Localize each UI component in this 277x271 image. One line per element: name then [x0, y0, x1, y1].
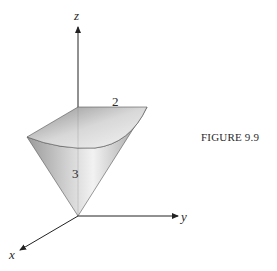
- figure-diagram: z y x 2 3 FIGURE 9.9: [0, 0, 277, 271]
- x-axis: [20, 216, 78, 250]
- height-label: 3: [72, 166, 79, 181]
- figure-caption: FIGURE 9.9: [201, 131, 260, 143]
- z-axis-label: z: [73, 8, 79, 23]
- cone-top-surface: [27, 107, 147, 148]
- y-axis-label: y: [179, 209, 187, 224]
- radius-label: 2: [112, 94, 119, 109]
- x-axis-label: x: [8, 247, 15, 262]
